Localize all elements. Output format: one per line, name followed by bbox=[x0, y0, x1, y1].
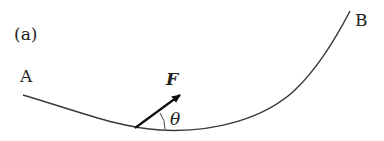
curve-path-a-to-b bbox=[23, 11, 350, 130]
force-label: F bbox=[166, 71, 178, 88]
diagram-canvas: (a) A B F θ bbox=[0, 0, 384, 141]
diagram-svg bbox=[0, 0, 384, 141]
point-b-label: B bbox=[355, 12, 368, 29]
angle-label: θ bbox=[170, 111, 180, 128]
point-a-label: A bbox=[20, 68, 32, 85]
angle-arc bbox=[160, 113, 165, 129]
panel-label: (a) bbox=[14, 26, 37, 43]
